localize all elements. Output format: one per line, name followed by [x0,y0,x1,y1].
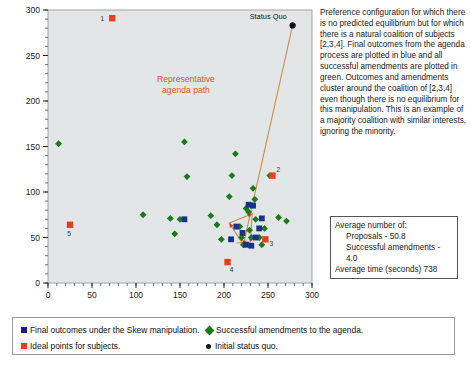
description-text: Preference configuration for which there… [320,8,468,138]
legend-item-successful-amendments: Successful amendments to the agenda. [206,325,363,335]
data-point-square [253,235,259,241]
stats-proposals: Proposals - 50.8 [335,231,453,242]
legend-item-final-outcomes: Final outcomes under the Skew manipulati… [21,325,199,335]
agenda-path-label-line2: agenda path [162,85,210,95]
subject-label: 2 [277,166,281,173]
scatter-plot: 050100150200250300050100150200250300X Ax… [0,0,330,300]
orange-square-icon [21,343,27,349]
black-circle-icon [206,344,211,349]
legend-item-status-quo: Initial status quo. [206,341,278,351]
legend-item-ideal-points: Ideal points for subjects. [21,341,120,351]
y-tick-label: 100 [26,187,40,197]
legend-label-successful-amendments: Successful amendments to the agenda. [216,325,363,335]
subject-label: 1 [100,15,104,22]
x-tick-label: 150 [173,290,187,300]
status-quo-label: Status Quo [250,12,287,21]
legend-label-ideal-points: Ideal points for subjects. [30,341,120,351]
legend-label-status-quo: Initial status quo. [215,341,278,351]
y-tick-label: 0 [35,278,40,288]
data-point-square [228,236,234,242]
y-tick-label: 250 [26,51,40,61]
data-point-square [240,230,246,236]
data-point-square [109,15,115,21]
data-point-square [243,242,249,248]
data-point-square [256,226,262,232]
stats-amendments: Successful amendments - 4.0 [335,242,453,264]
legend-box: Final outcomes under the Skew manipulati… [12,317,455,355]
x-tick-label: 0 [46,290,51,300]
legend-label-final-outcomes: Final outcomes under the Skew manipulati… [30,325,199,335]
data-point-square [182,216,188,222]
data-point-square [250,203,256,209]
stats-heading: Average number of: [335,220,453,231]
y-tick-label: 150 [26,142,40,152]
x-tick-label: 250 [261,290,275,300]
data-point-square [224,259,230,265]
data-point-square [67,222,73,228]
data-point-square [233,224,239,230]
x-tick-label: 100 [129,290,143,300]
y-tick-label: 200 [26,96,40,106]
data-point-circle [290,22,296,28]
y-tick-label: 300 [26,5,40,15]
subject-label: 4 [230,266,234,273]
x-tick-label: 200 [217,290,231,300]
statistics-box: Average number of: Proposals - 50.8 Succ… [330,216,458,279]
subject-label: 3 [270,240,274,247]
y-tick-label: 50 [31,233,41,243]
data-point-square [262,236,268,242]
data-point-square [259,215,265,221]
x-tick-label: 50 [87,290,97,300]
subject-label: 5 [67,230,71,237]
data-point-square [248,243,254,249]
green-diamond-icon [205,325,215,335]
data-point-square [269,172,275,178]
chart-canvas: 050100150200250300050100150200250300X Ax… [0,0,330,300]
navy-square-icon [21,327,27,333]
x-tick-label: 300 [305,290,319,300]
stats-time: Average time (seconds) 738 [335,264,453,275]
agenda-path-label-line1: Representative [157,74,215,84]
